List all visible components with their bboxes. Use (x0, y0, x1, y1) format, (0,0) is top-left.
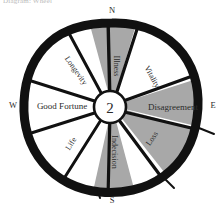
compass-label-south: S (104, 196, 120, 205)
wheel-figure: Diagram: Wheel (0, 0, 224, 214)
sector-label-indecision: Indecision (110, 135, 119, 168)
center-number: 2 (106, 100, 114, 116)
compass-label-west: W (6, 101, 20, 110)
sector-label-illness: Illness (112, 56, 121, 77)
wheel-diagram: 2 Illness Vitality Disagreement Loss Ind… (0, 0, 224, 214)
compass-label-north: N (104, 6, 120, 15)
sector-label-good-fortune: Good Fortune (37, 101, 87, 111)
sector-label-disagreement: Disagreement (148, 102, 198, 112)
spoke-south (108, 112, 110, 198)
compass-label-east: E (206, 101, 220, 110)
